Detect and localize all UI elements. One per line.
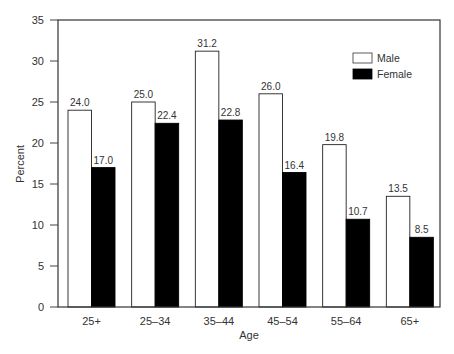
- legend: Male Female: [353, 52, 412, 80]
- y-tick-label: 25: [32, 96, 44, 108]
- bar-female: [410, 237, 434, 307]
- bar-female: [219, 120, 243, 307]
- y-tick-label: 20: [32, 137, 44, 149]
- bar-male: [195, 51, 219, 307]
- value-label-female: 22.8: [221, 107, 241, 118]
- bar-male: [68, 110, 92, 307]
- legend-item-female: Female: [353, 68, 412, 80]
- x-tick-label: 55–64: [331, 315, 362, 327]
- legend-swatch-male: [353, 53, 372, 63]
- x-tick-label: 25+: [82, 315, 101, 327]
- value-label-male: 31.2: [197, 38, 217, 49]
- y-tick-label: 5: [38, 260, 44, 272]
- bar-male: [386, 196, 410, 307]
- bar-female: [92, 168, 116, 307]
- legend-label-female: Female: [377, 68, 412, 80]
- legend-item-male: Male: [353, 52, 400, 64]
- x-tick-label: 25–34: [140, 315, 171, 327]
- x-tick-label: 65+: [400, 315, 419, 327]
- bar-male: [323, 145, 347, 307]
- bars: [68, 51, 433, 307]
- value-label-male: 25.0: [134, 89, 154, 100]
- y-axis-title: Percent: [14, 145, 26, 183]
- bar-female: [155, 123, 179, 307]
- y-tick-label: 0: [38, 301, 44, 313]
- bar-chart: 05101520253035 24.017.025.022.431.222.82…: [0, 0, 454, 354]
- value-label-female: 10.7: [348, 206, 368, 217]
- value-label-male: 26.0: [261, 81, 281, 92]
- bar-female: [346, 219, 370, 307]
- value-label-male: 24.0: [70, 97, 90, 108]
- y-axis: 05101520253035: [32, 14, 58, 313]
- x-tick-label: 35–44: [204, 315, 235, 327]
- value-labels: 24.017.025.022.431.222.826.016.419.810.7…: [70, 38, 429, 235]
- bar-female: [283, 173, 307, 307]
- value-label-female: 8.5: [415, 224, 429, 235]
- x-axis-title: Age: [239, 329, 259, 341]
- legend-label-male: Male: [377, 52, 400, 64]
- y-tick-label: 15: [32, 178, 44, 190]
- value-label-male: 13.5: [388, 183, 408, 194]
- legend-swatch-female: [353, 69, 372, 79]
- bar-male: [132, 102, 156, 307]
- value-label-female: 16.4: [285, 160, 305, 171]
- y-tick-label: 30: [32, 55, 44, 67]
- y-tick-label: 10: [32, 219, 44, 231]
- value-label-female: 17.0: [94, 155, 114, 166]
- value-label-female: 22.4: [157, 110, 177, 121]
- x-axis: 25+25–3435–4445–5455–6465+: [82, 315, 419, 327]
- x-tick-label: 45–54: [267, 315, 298, 327]
- y-tick-label: 35: [32, 14, 44, 26]
- bar-male: [259, 94, 283, 307]
- value-label-male: 19.8: [325, 132, 345, 143]
